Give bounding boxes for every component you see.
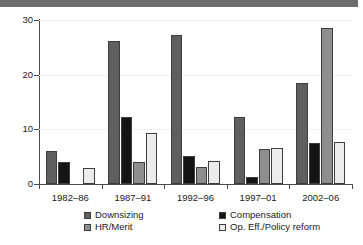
bar-group [102,20,165,184]
x-axis-tick-label: 1982–86 [39,192,102,203]
bar [58,162,70,184]
bar [271,148,283,184]
chart-legend: DownsizingCompensationHR/MeritOp. Eff./P… [84,210,334,236]
x-axis-tick [352,184,353,189]
legend-item[interactable]: Op. Eff./Policy reform [219,222,320,232]
legend-label: Op. Eff./Policy reform [230,222,320,232]
x-axis-tick [102,184,103,189]
x-axis-tick [39,184,40,189]
bar [296,83,308,184]
bar [234,117,246,184]
legend-item[interactable]: Downsizing [84,210,144,220]
bar [196,167,208,184]
legend-item[interactable]: Compensation [219,210,291,220]
legend-swatch-icon [219,212,226,219]
y-axis-tick-label: 10 [9,124,33,133]
x-axis-line [39,184,353,185]
legend-label: Compensation [230,210,291,220]
bar-group [39,20,102,184]
bar [321,28,333,184]
legend-swatch-icon [219,224,226,231]
bar [171,35,183,184]
legend-label: HR/Merit [95,222,132,232]
bar [83,168,95,184]
bar-group [289,20,352,184]
bar [133,162,145,184]
legend-swatch-icon [84,224,91,231]
y-axis-tick-label: 20 [9,70,33,79]
x-axis-tick [289,184,290,189]
bar [121,117,133,184]
bar-group [164,20,227,184]
x-axis-tick-label: 1987–91 [102,192,165,203]
legend-label: Downsizing [95,210,144,220]
bar [309,143,321,184]
bar [246,177,258,184]
x-axis-tick-label: 1992–96 [164,192,227,203]
x-axis-tick-label: 2002–06 [289,192,352,203]
bar [146,133,158,184]
x-axis-tick-label: 1997–01 [227,192,290,203]
x-axis-tick [164,184,165,189]
bar [334,142,346,184]
bar [108,41,120,184]
plot-area [39,20,352,184]
legend-item[interactable]: HR/Merit [84,222,132,232]
y-axis-tick-label: 30 [9,15,33,24]
bar-chart-figure: 0102030 1982–861987–911992–961997–012002… [0,0,363,245]
x-axis-tick [227,184,228,189]
bar [183,156,195,184]
bar [208,161,220,184]
y-axis-tick-label: 0 [9,179,33,188]
bar [46,151,58,184]
bar [259,149,271,184]
bar-group [227,20,290,184]
header-band [0,0,358,7]
legend-swatch-icon [84,212,91,219]
y-axis-labels: 0102030 [0,0,33,200]
